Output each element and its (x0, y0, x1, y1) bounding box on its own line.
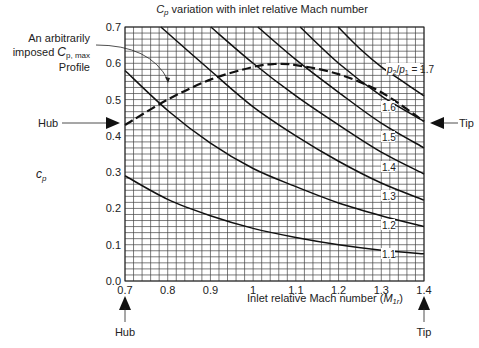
y-tick-label: 0.1 (106, 239, 121, 251)
arrow-right-icon (106, 117, 120, 129)
chart-title: Cp variation with inlet relative Mach nu… (156, 3, 368, 17)
y-tick-label: 0.2 (106, 202, 121, 214)
y-tick-label: 0.3 (106, 166, 121, 178)
pressure-ratio-curve (211, 27, 424, 174)
arrow-left-icon (430, 117, 444, 129)
pressure-ratio-curves (125, 27, 424, 254)
hub-marker-bottom: Hub (115, 296, 135, 338)
chart: Cp variation with inlet relative Mach nu… (0, 0, 479, 348)
hub-marker-left: Hub (38, 117, 120, 129)
y-tick-label: 0.7 (106, 21, 121, 33)
svg-text:1.2: 1.2 (382, 220, 396, 231)
svg-text:Tip: Tip (417, 326, 432, 338)
svg-text:imposed Cp, max: imposed Cp, max (13, 45, 90, 60)
curve-labels: p2/p1 = 1.7 1.6 1.5 1.4 1.3 1.2 1.1 (381, 63, 434, 260)
svg-text:Profile: Profile (59, 61, 90, 73)
arrow-up-icon (119, 296, 131, 310)
y-tick-label: 0.6 (106, 57, 121, 69)
tip-marker-right: Tip (430, 117, 474, 129)
svg-text:1.1: 1.1 (382, 249, 396, 260)
svg-text:An arbitrarily: An arbitrarily (28, 32, 90, 44)
x-axis-label: Inlet relative Mach number (M1r) (247, 292, 403, 306)
svg-text:1.3: 1.3 (382, 191, 396, 202)
y-tick-label: 0.4 (106, 130, 121, 142)
svg-text:1.6: 1.6 (382, 102, 396, 113)
x-tick-label: 1.4 (416, 284, 431, 296)
svg-text:1.4: 1.4 (382, 162, 396, 173)
svg-text:1.5: 1.5 (382, 132, 396, 143)
tip-marker-bottom: Tip (417, 296, 432, 338)
x-tick-label: 0.9 (203, 284, 218, 296)
y-axis-label: cp (36, 167, 47, 183)
x-tick-label: 0.8 (160, 284, 175, 296)
svg-text:Tip: Tip (459, 117, 474, 129)
y-tick-label: 0.5 (106, 94, 121, 106)
svg-text:Hub: Hub (115, 326, 135, 338)
arrow-up-icon (418, 296, 430, 310)
svg-text:Hub: Hub (38, 117, 58, 129)
pressure-ratio-curve (161, 27, 424, 200)
y-tick-label: 0.0 (106, 275, 121, 287)
